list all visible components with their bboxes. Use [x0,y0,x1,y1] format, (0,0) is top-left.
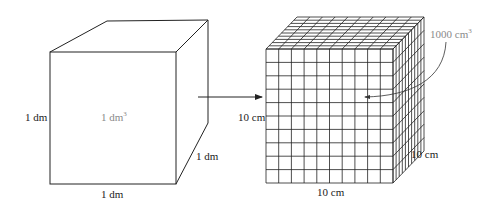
left-cube-height-label: 1 dm [25,111,48,123]
right-cube-width-label: 10 cm [317,186,345,198]
left-cube-width-label: 1 dm [101,188,124,200]
right-cube-depth-label: 10 cm [411,148,439,160]
left-cube [50,20,208,184]
right-cube-height-label: 10 cm [238,111,266,123]
right-cube-volume-label: 1000 cm3 [430,27,472,40]
left-cube-volume-label: 1 dm3 [101,110,127,123]
volume-conversion-diagram: 1 dm3 1 dm 1 dm 1 dm 1000 cm3 10 cm 10 c… [0,0,493,209]
left-cube-depth-label: 1 dm [196,150,219,162]
right-cube-grid [266,17,424,183]
